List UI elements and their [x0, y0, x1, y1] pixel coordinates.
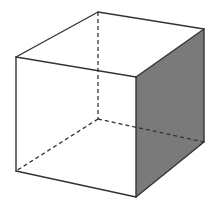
right-face [136, 29, 204, 197]
visible-edge [16, 12, 98, 57]
visible-edge [98, 12, 204, 29]
visible-edge [16, 171, 136, 197]
faces-layer [136, 29, 204, 197]
visible-edge [16, 57, 136, 77]
hidden-edge [16, 119, 98, 171]
cube-diagram [0, 0, 217, 207]
